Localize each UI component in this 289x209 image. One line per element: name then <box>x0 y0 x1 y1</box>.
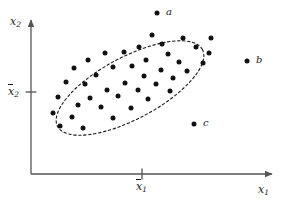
x-mean-tick-text: x <box>136 180 142 193</box>
data-point <box>122 50 127 55</box>
data-point <box>201 61 206 66</box>
data-point <box>171 76 176 81</box>
data-point <box>177 60 182 65</box>
data-point <box>136 88 141 93</box>
data-point <box>103 51 108 56</box>
data-point <box>56 95 61 100</box>
data-point <box>166 52 171 57</box>
outlier-point-c <box>192 122 197 127</box>
data-point <box>146 97 151 102</box>
data-point <box>94 73 99 78</box>
y-mean-tick-sub: 2 <box>14 90 19 99</box>
data-point <box>99 105 104 110</box>
outlier-point-b <box>245 59 250 64</box>
plot-canvas <box>0 0 289 209</box>
data-point <box>137 45 142 50</box>
confidence-ellipse <box>43 22 217 154</box>
data-point <box>181 36 186 41</box>
data-point <box>86 58 91 63</box>
data-point <box>83 82 88 87</box>
x-mean-overbar: x <box>136 181 142 192</box>
data-point <box>72 66 77 71</box>
data-point <box>160 42 165 47</box>
scatter-plot-figure: x2 x1 x2 x1 abc <box>0 0 289 209</box>
data-point <box>105 88 110 93</box>
data-point <box>168 89 173 94</box>
outlier-point-a <box>155 11 160 16</box>
outlier-label-c: c <box>203 118 209 128</box>
data-point <box>123 81 128 86</box>
data-point <box>154 82 159 87</box>
data-point <box>142 74 147 79</box>
data-point <box>159 68 164 73</box>
outlier-label-a: a <box>166 7 172 17</box>
data-point <box>130 64 135 69</box>
y-axis-title-sub: 2 <box>16 20 21 29</box>
data-point <box>185 69 190 74</box>
data-point <box>70 115 75 120</box>
data-point <box>58 124 63 129</box>
data-point <box>194 45 199 50</box>
y-mean-overbar: x <box>8 86 14 97</box>
data-point <box>144 58 149 63</box>
data-point <box>129 106 134 111</box>
data-point <box>64 80 69 85</box>
data-point <box>116 94 121 99</box>
x-axis-title-sub: 1 <box>264 188 269 197</box>
x-mean-tick-sub: 1 <box>142 185 147 194</box>
data-point <box>76 103 81 108</box>
data-point <box>111 65 116 70</box>
x-mean-tick-label: x1 <box>136 181 147 194</box>
cluster-data-points <box>51 33 214 131</box>
data-point <box>209 36 214 41</box>
data-point <box>81 126 86 131</box>
data-point <box>150 33 155 38</box>
y-axis-title: x2 <box>10 16 21 29</box>
y-mean-tick-text: x <box>8 85 14 98</box>
data-point <box>111 116 116 121</box>
data-point <box>207 51 212 56</box>
x-axis-title: x1 <box>258 184 269 197</box>
y-mean-tick-label: x2 <box>8 86 19 99</box>
outlier-data-points <box>155 11 250 127</box>
data-point <box>88 96 93 101</box>
outlier-label-b: b <box>256 55 262 65</box>
data-point <box>51 111 56 116</box>
